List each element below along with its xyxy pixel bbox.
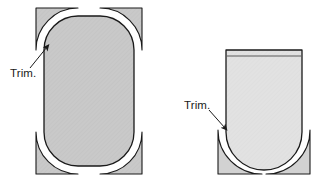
right-trim-annotation: Trim.	[184, 99, 225, 128]
right-trim-label: Trim.	[184, 99, 210, 111]
right-part-body	[226, 50, 302, 170]
right-leader-line	[209, 110, 225, 128]
left-part-group	[36, 8, 142, 174]
right-part-group	[218, 50, 310, 174]
left-part-body	[44, 16, 134, 166]
trim-diagram-figure: Trim. Trim.	[0, 0, 325, 182]
left-trim-annotation: Trim.	[10, 47, 47, 79]
left-trim-label: Trim.	[10, 67, 36, 79]
